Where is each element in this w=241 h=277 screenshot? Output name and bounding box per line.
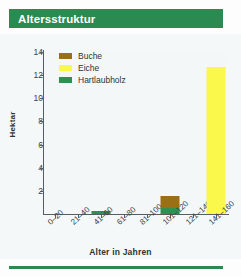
bar-group <box>181 52 204 214</box>
bar-group <box>113 52 136 214</box>
bar-group <box>44 52 67 214</box>
x-axis-title: Alter in Jahren <box>0 247 241 257</box>
bar-group <box>204 52 227 214</box>
y-axis-title: Hektar <box>8 95 17 155</box>
chart-page: Altersstruktur 2468101214 Hektar BucheEi… <box>0 0 241 277</box>
footer-divider <box>9 266 223 269</box>
bar-segment-eiche <box>206 67 225 214</box>
page-title: Altersstruktur <box>9 13 95 25</box>
y-axis-ticks: 2468101214 <box>0 34 43 259</box>
bar-group <box>67 52 90 214</box>
bar-group <box>90 52 113 214</box>
bar-group <box>136 52 159 214</box>
title-banner: Altersstruktur <box>9 9 223 28</box>
bar-group <box>158 52 181 214</box>
chart-figure: 2468101214 Hektar BucheEicheHartlaubholz… <box>0 34 241 259</box>
